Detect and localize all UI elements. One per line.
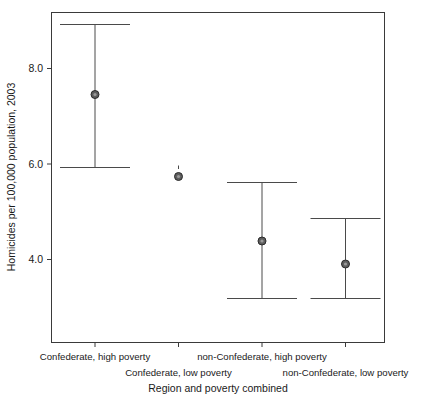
data-point-center-2 xyxy=(177,175,180,178)
error-bar-group-3 xyxy=(227,183,297,299)
x-axis-title: Region and poverty combined xyxy=(148,382,288,394)
data-point-center-3 xyxy=(260,239,263,242)
category-label-4: non-Confederate, low poverty xyxy=(283,367,409,378)
category-label-1: Confederate, high poverty xyxy=(40,351,151,362)
error-bar-group-4 xyxy=(311,219,381,299)
error-bar-group-2 xyxy=(175,166,183,181)
chart-container: 8.0 6.0 4.0 Homicides per 100,000 popula… xyxy=(0,0,432,407)
y-tick-label-4: 4.0 xyxy=(28,253,43,265)
category-label-2: Confederate, low poverty xyxy=(125,367,232,378)
error-bar-chart: 8.0 6.0 4.0 Homicides per 100,000 popula… xyxy=(0,0,432,407)
category-label-3: non-Confederate, high poverty xyxy=(197,351,327,362)
y-axis-title: Homicides per 100,000 population, 2003 xyxy=(5,83,17,272)
error-bar-group-1 xyxy=(60,25,130,168)
y-tick-label-8: 8.0 xyxy=(28,62,43,74)
y-tick-label-6: 6.0 xyxy=(28,158,43,170)
plot-frame xyxy=(52,13,385,343)
data-point-center-4 xyxy=(344,262,347,265)
data-point-center-1 xyxy=(93,93,96,96)
